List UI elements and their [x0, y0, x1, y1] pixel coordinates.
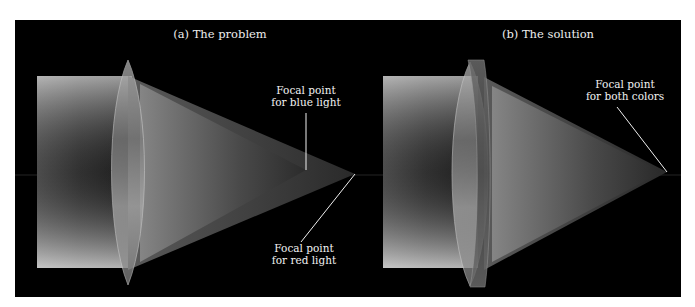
blue-focal-label-line2: for blue light: [256, 96, 356, 108]
both-focal-label: Focal point for both colors: [575, 78, 675, 102]
red-focal-label-line1: Focal point: [254, 242, 354, 254]
panel-a-title: (a) The problem: [150, 28, 290, 40]
panel-b-title: (b) The solution: [483, 28, 613, 40]
chromatic-aberration-figure: (a) The problem Focal point for blue lig…: [0, 0, 695, 307]
both-focal-label-line1: Focal point: [575, 78, 675, 90]
red-focal-label: Focal point for red light: [254, 242, 354, 266]
both-focal-label-line2: for both colors: [575, 90, 675, 102]
blue-focal-label: Focal point for blue light: [256, 84, 356, 108]
red-focal-label-line2: for red light: [254, 254, 354, 266]
blue-focal-label-line1: Focal point: [256, 84, 356, 96]
